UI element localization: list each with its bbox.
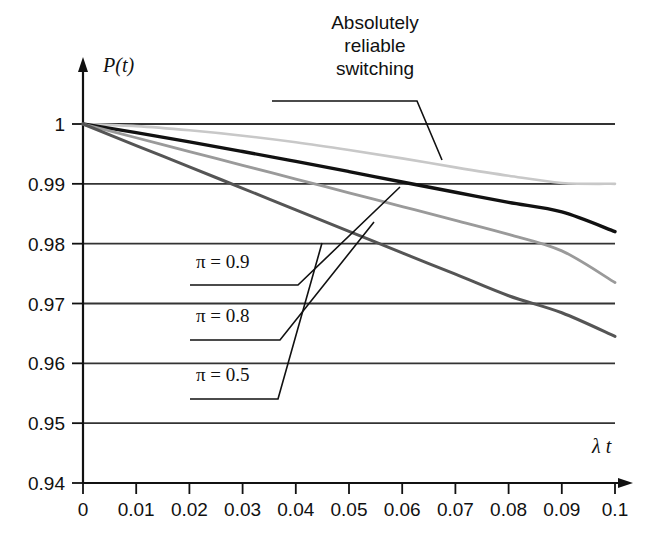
y-tick-label-3: 0.97 <box>28 294 65 315</box>
series-label-pi-0-9-text: π = 0.9 <box>196 251 250 272</box>
chart-figure: 00.010.020.030.040.050.060.070.080.090.1… <box>0 0 653 539</box>
x-tick-label-4: 0.04 <box>277 499 314 520</box>
reliability-line-chart: 00.010.020.030.040.050.060.070.080.090.1… <box>0 0 653 539</box>
x-tick-label-10: 0.1 <box>602 499 628 520</box>
y-tick-label-4: 0.96 <box>28 353 65 374</box>
x-tick-label-1: 0.01 <box>118 499 155 520</box>
y-tick-label-1: 0.99 <box>28 174 65 195</box>
x-tick-label-2: 0.02 <box>171 499 208 520</box>
x-tick-label-0: 0 <box>78 499 89 520</box>
callout-line-2: reliable <box>344 35 405 56</box>
series-label-pi-0-5-text: π = 0.5 <box>196 364 250 385</box>
x-axis-title: λ t <box>591 435 612 457</box>
series-label-pi-0-8-text: π = 0.8 <box>196 305 250 326</box>
x-tick-label-6: 0.06 <box>384 499 421 520</box>
x-tick-label-9: 0.09 <box>543 499 580 520</box>
y-axis-title: P(t) <box>102 54 134 77</box>
callout-line-3: switching <box>336 58 414 79</box>
x-tick-label-8: 0.08 <box>490 499 527 520</box>
x-tick-label-3: 0.03 <box>224 499 261 520</box>
x-tick-label-5: 0.05 <box>331 499 368 520</box>
callout-line-1: Absolutely <box>331 12 419 33</box>
y-tick-label-0: 1 <box>54 114 65 135</box>
y-tick-label-5: 0.95 <box>28 413 65 434</box>
y-tick-label-6: 0.94 <box>28 473 65 494</box>
chart-background <box>0 0 653 539</box>
y-tick-label-2: 0.98 <box>28 234 65 255</box>
x-tick-label-7: 0.07 <box>437 499 474 520</box>
